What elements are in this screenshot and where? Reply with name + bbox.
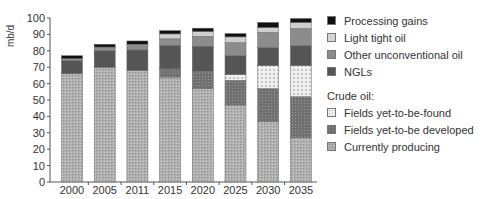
y-tick-label: 70 xyxy=(33,61,45,73)
legend-swatch-icon xyxy=(327,108,336,117)
legend-label: Other unconventional oil xyxy=(344,49,463,61)
x-tick-label: 2000 xyxy=(60,184,84,196)
bar-segment-other-unconventional-oil xyxy=(127,46,148,50)
bar-segment-processing-gains xyxy=(94,44,115,47)
bar-segment-processing-gains xyxy=(192,28,213,31)
bar-segment-processing-gains xyxy=(160,31,181,34)
legend-label: Light tight oil xyxy=(344,32,406,44)
bar-2011 xyxy=(127,41,148,182)
y-tick-label: 60 xyxy=(33,78,45,90)
bar-2015 xyxy=(160,31,181,182)
legend-label: Currently producing xyxy=(344,141,440,153)
bar-2035 xyxy=(290,18,311,182)
x-tick-label: 2005 xyxy=(92,184,116,196)
bar-segment-other-unconventional-oil xyxy=(94,47,115,51)
y-tick-label: 0 xyxy=(39,176,45,188)
y-tick-label: 80 xyxy=(33,45,45,57)
bar-segment-fields-yet-to-be-found xyxy=(290,66,311,97)
bar-segment-processing-gains xyxy=(127,41,148,44)
y-tick-label: 100 xyxy=(27,12,45,24)
x-tick-label: 2020 xyxy=(191,184,215,196)
bar-segment-other-unconventional-oil xyxy=(225,43,246,56)
bar-segment-currently-producing xyxy=(160,77,181,182)
y-tick-label: 40 xyxy=(33,110,45,122)
legend-label: Fields yet-to-be-found xyxy=(344,107,451,119)
legend-item: Processing gains xyxy=(327,12,486,29)
legend: Processing gainsLight tight oilOther unc… xyxy=(327,12,486,155)
bar-segment-currently-producing xyxy=(94,67,115,182)
bar-segment-fields-yet-to-be-developed xyxy=(160,69,181,77)
bar-2020 xyxy=(192,28,213,182)
bar-segment-currently-producing xyxy=(62,74,83,182)
bar-2025 xyxy=(225,34,246,182)
bar-segment-currently-producing xyxy=(258,121,279,182)
legend-top-group: Processing gainsLight tight oilOther unc… xyxy=(327,12,486,80)
bar-2000 xyxy=(62,56,83,182)
bar-2030 xyxy=(258,22,279,182)
bar-segment-other-unconventional-oil xyxy=(62,59,83,61)
bar-segment-processing-gains xyxy=(62,56,83,59)
bar-segment-fields-yet-to-be-found xyxy=(225,75,246,81)
bar-segment-ngls xyxy=(160,45,181,68)
bar-segment-ngls xyxy=(192,46,213,71)
legend-crude-heading: Crude oil: xyxy=(327,84,486,104)
legend-item: Currently producing xyxy=(327,138,486,155)
bar-segment-ngls xyxy=(258,48,279,66)
legend-swatch-icon xyxy=(327,33,336,42)
bar-segment-currently-producing xyxy=(290,138,311,182)
legend-swatch-icon xyxy=(327,16,336,25)
legend-item: Fields yet-to-be-found xyxy=(327,104,486,121)
bar-segment-currently-producing xyxy=(127,70,148,182)
y-tick-label: 90 xyxy=(33,28,45,40)
bar-segment-currently-producing xyxy=(225,105,246,182)
bar-segment-other-unconventional-oil xyxy=(160,39,181,46)
x-tick-label: 2030 xyxy=(256,184,280,196)
bar-segment-ngls xyxy=(62,61,83,74)
x-tick-label: 2035 xyxy=(289,184,313,196)
bar-segment-fields-yet-to-be-developed xyxy=(225,80,246,105)
bar-segment-processing-gains xyxy=(258,22,279,27)
bar-segment-fields-yet-to-be-developed xyxy=(290,97,311,138)
y-tick-label: 30 xyxy=(33,127,45,139)
legend-item: Other unconventional oil xyxy=(327,46,486,63)
bar-2005 xyxy=(94,44,115,182)
legend-item: Fields yet-to-be developed xyxy=(327,121,486,138)
bar-segment-processing-gains xyxy=(290,18,311,22)
legend-label: Fields yet-to-be developed xyxy=(344,124,474,136)
bar-segment-light-tight-oil xyxy=(225,37,246,43)
bar-segment-light-tight-oil xyxy=(160,34,181,39)
bar-segment-ngls xyxy=(94,51,115,67)
bar-segment-other-unconventional-oil xyxy=(290,28,311,45)
bar-segment-other-unconventional-oil xyxy=(192,36,213,46)
legend-label: Processing gains xyxy=(344,15,428,27)
bar-segment-light-tight-oil xyxy=(192,31,213,36)
legend-item: Light tight oil xyxy=(327,29,486,46)
bar-segment-other-unconventional-oil xyxy=(258,32,279,47)
bar-segment-ngls xyxy=(225,56,246,75)
bar-segment-ngls xyxy=(290,46,311,66)
y-tick-label: 50 xyxy=(33,94,45,106)
bar-segment-currently-producing xyxy=(192,89,213,182)
legend-item: NGLs xyxy=(327,63,486,80)
legend-swatch-icon xyxy=(327,142,336,151)
bar-segment-fields-yet-to-be-developed xyxy=(192,72,213,88)
y-tick-label: 20 xyxy=(33,143,45,155)
legend-swatch-icon xyxy=(327,50,336,59)
bars xyxy=(62,18,312,182)
y-tick-label: 10 xyxy=(33,160,45,172)
legend-swatch-icon xyxy=(327,67,336,76)
legend-label: NGLs xyxy=(344,66,372,78)
legend-crude-group: Fields yet-to-be-foundFields yet-to-be d… xyxy=(327,104,486,155)
x-tick-label: 2025 xyxy=(223,184,247,196)
x-tick-label: 2015 xyxy=(158,184,182,196)
legend-swatch-icon xyxy=(327,125,336,134)
bar-segment-fields-yet-to-be-developed xyxy=(258,89,279,122)
bar-segment-processing-gains xyxy=(225,34,246,37)
bar-segment-light-tight-oil xyxy=(258,28,279,33)
y-axis-label: mb/d xyxy=(5,25,16,47)
bar-segment-light-tight-oil xyxy=(290,22,311,28)
bar-segment-ngls xyxy=(127,50,148,70)
bar-segment-fields-yet-to-be-found xyxy=(258,66,279,89)
x-tick-label: 2011 xyxy=(126,184,150,196)
